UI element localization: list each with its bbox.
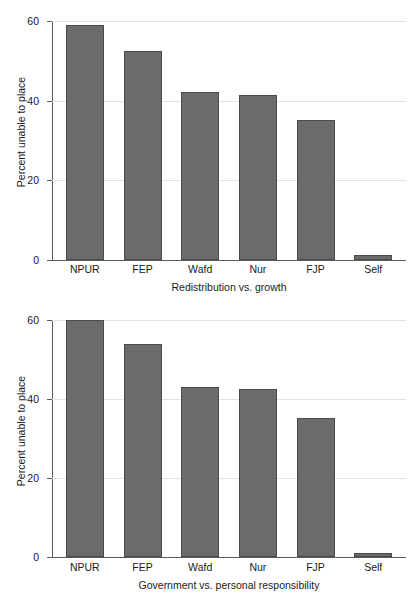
- x-label-npur: NPUR: [56, 263, 114, 275]
- y-tick-label-0: 0: [33, 254, 39, 266]
- y-axis-title: Percent unable to place: [15, 76, 27, 186]
- bar-fep[interactable]: [124, 51, 162, 260]
- x-label-nur: Nur: [229, 263, 287, 275]
- bar-slot-nur: [229, 320, 287, 557]
- x-label-fep: FEP: [114, 263, 172, 275]
- chart-panel-redistribution: Percent unable to place 60 40 20 0: [0, 0, 414, 299]
- y-axis-title-container-top: Percent unable to place: [14, 0, 28, 299]
- bar-wafd[interactable]: [181, 387, 219, 557]
- bar-slot-npur: [56, 320, 114, 557]
- bar-fep[interactable]: [124, 344, 162, 557]
- y-tick-label-60: 60: [27, 314, 39, 326]
- y-tick-label-0: 0: [33, 551, 39, 563]
- bar-self[interactable]: [354, 255, 392, 260]
- x-label-fep: FEP: [114, 561, 172, 573]
- y-tick-label-40: 40: [27, 95, 39, 107]
- x-label-fjp: FJP: [287, 561, 345, 573]
- x-label-self: Self: [344, 263, 402, 275]
- bar-fjp[interactable]: [297, 418, 335, 557]
- plot-area-top: 60 40 20 0: [52, 21, 406, 260]
- bar-slot-fep: [114, 320, 172, 557]
- y-axis-title-container-bottom: Percent unable to place: [14, 299, 28, 599]
- x-axis-title-bottom: Government vs. personal responsibility: [52, 579, 406, 591]
- bar-slot-self: [344, 320, 402, 557]
- bar-npur[interactable]: [66, 320, 104, 557]
- bar-fjp[interactable]: [297, 120, 335, 260]
- x-axis-labels-bottom: NPUR FEP Wafd Nur FJP Self: [52, 561, 406, 573]
- bar-group-bottom: [52, 320, 406, 557]
- y-tick-0: 0: [47, 557, 52, 558]
- bar-slot-wafd: [171, 320, 229, 557]
- plot-area-bottom: 60 40 20 0: [52, 320, 406, 557]
- y-axis-title: Percent unable to place: [15, 376, 27, 486]
- bar-slot-fep: [114, 21, 172, 260]
- bar-wafd[interactable]: [181, 92, 219, 260]
- bar-slot-self: [344, 21, 402, 260]
- figure-two-panel-bar-chart: Percent unable to place 60 40 20 0: [0, 0, 414, 599]
- x-label-nur: Nur: [229, 561, 287, 573]
- y-tick-0: 0: [47, 260, 52, 261]
- x-label-wafd: Wafd: [171, 561, 229, 573]
- x-label-wafd: Wafd: [171, 263, 229, 275]
- x-label-npur: NPUR: [56, 561, 114, 573]
- bar-slot-wafd: [171, 21, 229, 260]
- bar-npur[interactable]: [66, 25, 104, 260]
- bar-self[interactable]: [354, 553, 392, 557]
- bar-nur[interactable]: [239, 95, 277, 260]
- x-axis-title-top: Redistribution vs. growth: [52, 281, 406, 293]
- bar-nur[interactable]: [239, 389, 277, 557]
- y-tick-label-40: 40: [27, 393, 39, 405]
- x-axis-baseline: [47, 557, 406, 558]
- chart-panel-government: Percent unable to place 60 40 20 0: [0, 299, 414, 599]
- x-axis-baseline: [47, 260, 406, 261]
- bar-slot-fjp: [287, 320, 345, 557]
- x-label-self: Self: [344, 561, 402, 573]
- y-tick-label-60: 60: [27, 15, 39, 27]
- y-tick-label-20: 20: [27, 472, 39, 484]
- bar-slot-nur: [229, 21, 287, 260]
- x-label-fjp: FJP: [287, 263, 345, 275]
- bar-slot-npur: [56, 21, 114, 260]
- y-tick-label-20: 20: [27, 174, 39, 186]
- x-axis-labels-top: NPUR FEP Wafd Nur FJP Self: [52, 263, 406, 275]
- bar-slot-fjp: [287, 21, 345, 260]
- bar-group-top: [52, 21, 406, 260]
